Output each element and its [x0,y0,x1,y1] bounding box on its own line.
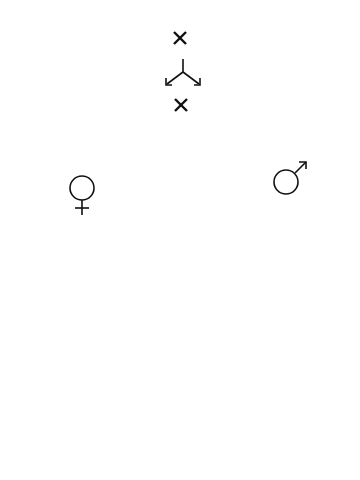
split-arrow-icon [166,59,200,85]
cross-symbol-f1 [175,99,187,111]
dihybrid-cross-diagram [0,0,360,480]
female-symbol-icon [70,176,94,215]
male-symbol-icon [274,162,306,194]
cross-symbol-p [174,32,186,44]
